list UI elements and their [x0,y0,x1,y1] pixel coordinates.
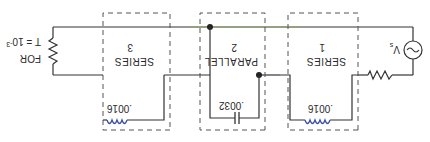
inductor-1-value: .0016 [308,103,333,114]
section-series-3: .0016 SERIES 3 [103,13,170,130]
section-3-title: SERIES [114,56,154,67]
section-2-title: PARALLEL [204,56,258,67]
source-label: Vs [389,42,400,55]
load-resistor-icon [49,38,57,64]
capacitor-value: .0032 [219,100,244,111]
inductor-3-value: .0016 [107,103,132,114]
section-1-number: 1 [319,42,325,53]
source: Vs [389,27,422,75]
circuit-svg: Vs .0016 SERIES 1 .0032 PARALLEL 2 [0,0,430,142]
load: FOR T = 10-3 [6,27,57,75]
section-parallel-2: .0032 PARALLEL 2 [200,13,265,130]
load-label-t: T = 10-3 [6,36,41,48]
inductor-1-icon [305,120,330,124]
section-3-number: 3 [127,42,133,53]
circuit-diagram: Vs .0016 SERIES 1 .0032 PARALLEL 2 [0,0,430,142]
load-label-for: FOR [20,53,41,64]
section-series-1: .0016 SERIES 1 [280,13,358,130]
section-2-number: 2 [231,42,237,53]
series-resistor-icon [368,71,392,79]
inductor-3-icon [107,120,127,124]
section-1-title: SERIES [306,56,346,67]
